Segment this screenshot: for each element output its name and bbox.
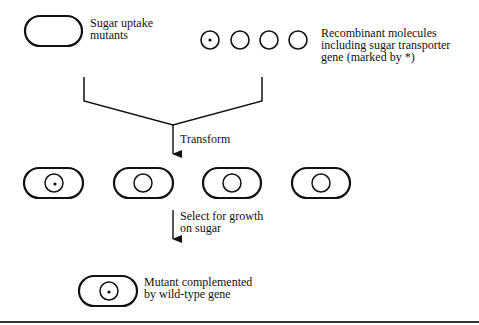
recombinant-molecule-marked xyxy=(201,31,219,49)
mutants-label: Sugar uptake mutants xyxy=(90,17,153,41)
transformed-cell xyxy=(292,168,350,198)
transformed-cell xyxy=(114,168,173,198)
complemented-label-line: by wild-type gene xyxy=(144,288,252,300)
merge-lines xyxy=(84,77,262,125)
recombinant-label: Recombinant molecules including sugar tr… xyxy=(321,27,450,63)
mutants-label-line: mutants xyxy=(90,29,153,41)
complemented-label: Mutant complemented by wild-type gene xyxy=(144,276,252,300)
complemented-mutant-cell xyxy=(79,276,137,306)
recombinant-molecule xyxy=(289,31,307,49)
transform-label: Transform xyxy=(180,133,230,145)
select-label-line: on sugar xyxy=(180,222,263,234)
recombinant-label-line: gene (marked by *) xyxy=(321,51,450,63)
select-label: Select for growth on sugar xyxy=(180,210,263,234)
mutant-cell-shape xyxy=(25,16,82,46)
recombinant-molecule xyxy=(231,31,249,49)
recombinant-molecule xyxy=(260,31,278,49)
transformed-cell xyxy=(203,168,261,198)
transformed-cell-marked xyxy=(24,168,83,198)
